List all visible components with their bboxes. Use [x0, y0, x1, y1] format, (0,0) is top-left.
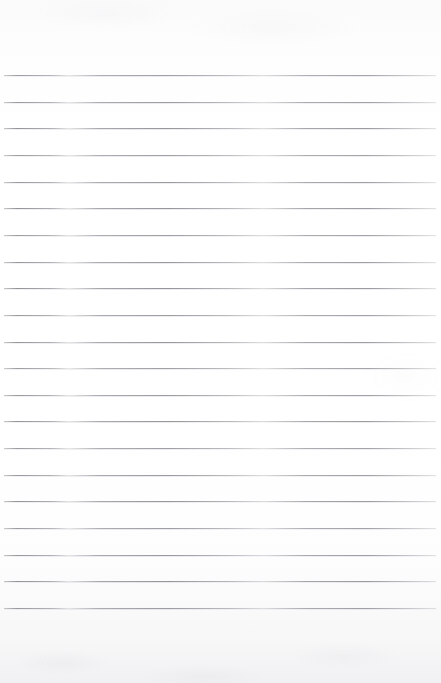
rule-lines-group — [0, 0, 441, 683]
rule-line — [4, 581, 436, 582]
rule-line — [4, 315, 436, 316]
rule-line — [4, 528, 436, 529]
rule-line — [4, 448, 436, 449]
rule-line — [4, 501, 436, 502]
rule-line — [4, 262, 436, 263]
rule-line — [4, 475, 436, 476]
rule-line — [4, 342, 436, 343]
rule-line — [4, 555, 436, 556]
rule-line — [4, 288, 436, 289]
rule-line — [4, 208, 436, 209]
rule-line — [4, 75, 436, 76]
rule-line — [4, 368, 436, 369]
rule-line — [4, 155, 436, 156]
rule-line — [4, 608, 436, 609]
rule-line — [4, 235, 436, 236]
rule-line — [4, 128, 436, 129]
rule-line — [4, 102, 436, 103]
rule-line — [4, 421, 436, 422]
rule-line — [4, 395, 436, 396]
rule-line — [4, 182, 436, 183]
paper-page — [0, 0, 441, 683]
